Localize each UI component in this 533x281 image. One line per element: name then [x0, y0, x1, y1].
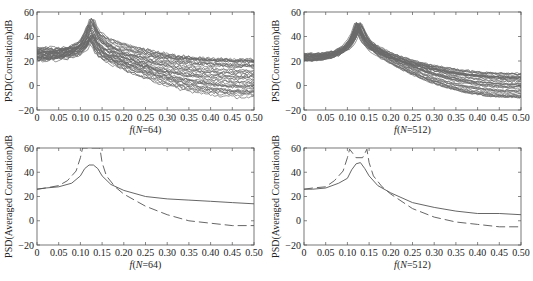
series-true [304, 149, 521, 227]
x-tick-label: 0.40 [469, 247, 487, 258]
panel-top-left: 00.050.100.150.200.250.300.350.400.450.5… [3, 7, 263, 137]
y-tick-label: 40 [24, 31, 34, 42]
y-tick-label: 20 [291, 56, 301, 67]
x-axis-label: f(N=64) [130, 259, 162, 271]
x-tick-label: 0.35 [180, 112, 198, 123]
y-tick-label: −20 [285, 240, 301, 251]
y-tick-label: 20 [24, 191, 34, 202]
x-tick-label: 0.45 [491, 247, 509, 258]
panel-bottom-left: 00.050.100.150.200.250.300.350.400.450.5… [3, 135, 263, 271]
y-tick-label: 60 [24, 143, 34, 154]
x-tick-label: 0.15 [93, 247, 111, 258]
x-tick-label: 0.25 [404, 247, 422, 258]
x-tick-label: 0.10 [339, 247, 357, 258]
plot-area [304, 22, 521, 98]
x-tick-label: 0.25 [137, 112, 155, 123]
plot-area [37, 148, 254, 226]
x-tick-label: 0.50 [512, 247, 530, 258]
series-averaged [37, 165, 254, 204]
y-tick-label: 60 [291, 7, 301, 18]
y-tick-label: 0 [296, 215, 301, 226]
x-tick-label: 0.50 [245, 112, 263, 123]
x-tick-label: 0.30 [425, 112, 443, 123]
x-axis-label-param: (N=64) [132, 259, 161, 271]
x-tick-label: 0.40 [469, 112, 487, 123]
y-tick-label: 40 [291, 31, 301, 42]
y-tick-label: 0 [296, 80, 301, 91]
x-axis-label-param: (N=512) [397, 259, 431, 271]
x-tick-label: 0.25 [404, 112, 422, 123]
x-tick-label: 0.05 [317, 247, 335, 258]
y-axis-label: PSD(Averaged Correlation)dB [3, 135, 15, 258]
x-tick-label: 0.15 [360, 112, 378, 123]
x-tick-label: 0 [302, 247, 307, 258]
x-axis-label: f(N=512) [394, 259, 431, 271]
x-tick-label: 0.20 [115, 112, 133, 123]
x-tick-label: 0.10 [72, 247, 90, 258]
plot-area [304, 149, 521, 227]
x-tick-label: 0.35 [447, 247, 465, 258]
panel-top-right: 00.050.100.150.200.250.300.350.400.450.5… [270, 7, 530, 137]
series-true [37, 148, 254, 226]
x-tick-label: 0.20 [382, 247, 400, 258]
x-tick-label: 0.05 [50, 112, 68, 123]
y-tick-label: 60 [24, 7, 34, 18]
x-tick-label: 0 [35, 112, 40, 123]
x-tick-label: 0.35 [447, 112, 465, 123]
x-axis-label-param: (N=512) [397, 124, 431, 136]
x-axis-label: f(N=512) [394, 124, 431, 136]
x-tick-label: 0.40 [202, 247, 220, 258]
x-tick-label: 0.10 [339, 112, 357, 123]
x-tick-label: 0.30 [158, 247, 176, 258]
x-axis-label: f(N=64) [130, 124, 162, 136]
y-tick-label: 60 [291, 143, 301, 154]
y-axis-label: PSD(Correlation)dB [270, 20, 282, 103]
y-tick-label: −20 [285, 105, 301, 116]
x-tick-label: 0.45 [224, 247, 242, 258]
plot-area [37, 18, 254, 99]
x-tick-label: 0 [35, 247, 40, 258]
x-tick-label: 0.15 [93, 112, 111, 123]
y-axis-label: PSD(Correlation)dB [3, 20, 15, 103]
psd-figure: 00.050.100.150.200.250.300.350.400.450.5… [0, 0, 533, 281]
x-tick-label: 0.45 [224, 112, 242, 123]
x-tick-label: 0.45 [491, 112, 509, 123]
y-tick-label: 0 [29, 215, 34, 226]
axes-frame [304, 148, 521, 245]
x-tick-label: 0.30 [425, 247, 443, 258]
x-tick-label: 0.10 [72, 112, 90, 123]
psd-curve [304, 24, 521, 89]
x-tick-label: 0.50 [512, 112, 530, 123]
x-tick-label: 0.30 [158, 112, 176, 123]
x-axis-label-param: (N=64) [132, 124, 161, 136]
x-tick-label: 0.05 [50, 247, 68, 258]
x-tick-label: 0.20 [115, 247, 133, 258]
y-axis-label: PSD(Averaged Correlation)dB [270, 135, 282, 258]
x-tick-label: 0.15 [360, 247, 378, 258]
y-tick-label: 20 [291, 191, 301, 202]
x-tick-label: 0.25 [137, 247, 155, 258]
y-tick-label: 0 [29, 80, 34, 91]
y-tick-label: 20 [24, 56, 34, 67]
x-tick-label: 0.50 [245, 247, 263, 258]
x-tick-label: 0 [302, 112, 307, 123]
x-tick-label: 0.35 [180, 247, 198, 258]
y-tick-label: −20 [18, 240, 34, 251]
y-tick-label: 40 [24, 167, 34, 178]
x-tick-label: 0.20 [382, 112, 400, 123]
y-tick-label: −20 [18, 105, 34, 116]
x-tick-label: 0.40 [202, 112, 220, 123]
series-averaged [304, 163, 521, 215]
x-tick-label: 0.05 [317, 112, 335, 123]
panel-bottom-right: 00.050.100.150.200.250.300.350.400.450.5… [270, 135, 530, 271]
y-tick-label: 40 [291, 167, 301, 178]
